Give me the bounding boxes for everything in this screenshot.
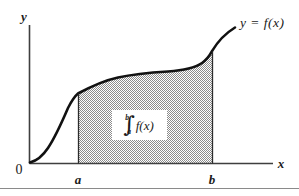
shaded-area-under-curve	[78, 45, 212, 164]
x-axis-label: x	[277, 156, 285, 171]
figure-canvas: y x 0 a b y = f(x) b a ∫ f(x)	[0, 0, 299, 196]
figure-bottom-rule	[0, 188, 299, 189]
upper-bound-label: b	[209, 172, 216, 187]
curve-equation-label: y = f(x)	[238, 15, 285, 30]
integral-annotation: b a ∫ f(x)	[112, 110, 167, 140]
integrand: f(x)	[136, 118, 154, 134]
y-axis-label: y	[19, 9, 27, 24]
origin-label: 0	[16, 162, 23, 177]
integral-expression: b a ∫ f(x)	[125, 114, 154, 136]
integral-sign-icon: ∫	[123, 114, 134, 136]
lower-bound-label: a	[75, 172, 82, 187]
integral-diagram: y x 0 a b y = f(x)	[0, 0, 299, 196]
